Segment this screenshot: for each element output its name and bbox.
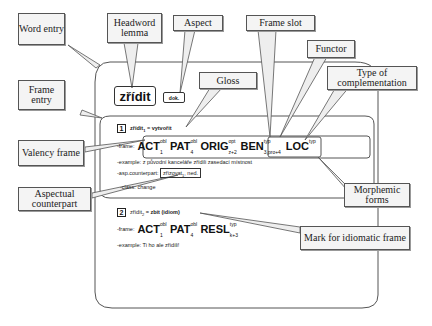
callout-mark-for-idiomatic-frame: Mark for idiomatic frame	[300, 226, 410, 250]
callout-aspect: Aspect	[173, 15, 223, 31]
callout-gloss: Gloss	[199, 72, 257, 89]
frame-1-asp-counterpart: -asp.counterpart: zřizovat1, ned.	[117, 170, 201, 179]
callout-word-entry: Word entry	[18, 13, 65, 45]
callout-aspectual-counterpart: Aspectual counterpart	[18, 187, 91, 211]
frame-2-lemma-index: 2	[142, 212, 144, 217]
frame-1-class: -class: change	[120, 184, 155, 191]
frame-1-gloss: = vytvořit	[147, 125, 172, 131]
slot-pat: PATobl4	[170, 140, 190, 152]
frame-2-lemma: zřídit	[130, 209, 142, 215]
slot-ben: BENtyp3,pro+4	[241, 140, 264, 152]
frame-2-head: zřídit2 = zbít (idiom)	[130, 209, 180, 218]
callout-headword-lemma: Headword lemma	[107, 13, 162, 43]
frame-number-2: 2	[117, 208, 126, 217]
callout-functor: Functor	[307, 40, 355, 58]
frame-1-valency-frame: -frame: ACTobl1 PATobl4 ORIGoptz+2 BENty…	[117, 140, 313, 152]
aspect-tag: dok.	[163, 92, 185, 103]
asp-counterpart-label: -asp.counterpart:	[117, 170, 159, 176]
slot-orig: ORIGoptz+2	[200, 140, 228, 152]
slot-loc: LOCtyp	[286, 140, 309, 152]
frame-2-example: -example: Ti ho ale zřídili!	[117, 242, 179, 249]
slot-resl: RESLtypk+3	[200, 223, 229, 235]
slot-act: ACTobl1	[137, 223, 160, 235]
slot-act: ACTobl1	[137, 140, 160, 152]
slot-pat: PATobl4	[170, 223, 190, 235]
frame-number-1: 1	[117, 124, 126, 133]
headword-lemma: zřídit	[114, 86, 156, 106]
frame-1-head: zřídit1 = vytvořit	[130, 125, 172, 134]
frame-1-example: -example: z původní kanceláře zřídili za…	[117, 159, 252, 166]
frame-2-frame-label: -frame:	[117, 226, 134, 232]
frame-2-gloss: = zbít (idiom)	[146, 209, 180, 215]
asp-counterpart-box: zřizovat1, ned.	[160, 168, 201, 178]
callout-frame-entry: Frame entry	[18, 80, 65, 110]
frame-1-frame-label: -frame:	[117, 143, 134, 149]
frame-1-lemma: zřídit	[130, 125, 143, 131]
callout-valency-frame: Valency frame	[18, 140, 84, 166]
frame-1-lemma-index: 1	[143, 128, 145, 133]
callout-frame-slot: Frame slot	[246, 15, 315, 31]
frame-2-valency-frame: -frame: ACTobl1 PATobl4 RESLtypk+3	[117, 223, 234, 235]
callout-type-of-complementation: Type of complementation	[327, 66, 417, 90]
callout-morphemic-forms: Morphemic forms	[344, 183, 410, 207]
